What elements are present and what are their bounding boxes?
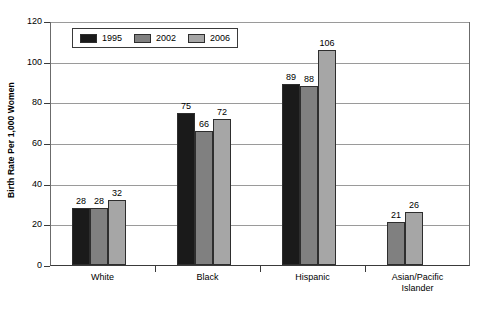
legend-swatch [188, 34, 205, 43]
y-axis-tick-label: 60 [14, 139, 42, 148]
gridline [51, 22, 469, 23]
gridline [51, 103, 469, 104]
y-axis-tick-mark [44, 266, 50, 267]
y-axis-tick-label: 80 [14, 98, 42, 107]
legend-entry: 2006 [188, 34, 230, 43]
x-axis-group-label: White [50, 272, 155, 283]
legend: 199520022006 [72, 28, 238, 48]
x-axis-label-line: White [50, 272, 155, 283]
bar [213, 119, 231, 265]
x-axis-group-label: Black [155, 272, 260, 283]
x-axis-label-line: Black [155, 272, 260, 283]
bar-value-label: 26 [399, 201, 429, 210]
gridline [51, 63, 469, 64]
bar [90, 208, 108, 265]
gridline [51, 144, 469, 145]
x-axis-group-label: Asian/PacificIslander [365, 272, 470, 294]
bar-value-label: 32 [102, 189, 132, 198]
legend-swatch [134, 34, 151, 43]
bar-chart: Birth Rate Per 1,000 Women 0204060801001… [0, 0, 487, 309]
bar [108, 200, 126, 265]
x-axis-group-label: Hispanic [260, 272, 365, 283]
bar [195, 131, 213, 265]
plot-area: 28283275667289881062126 [50, 22, 470, 266]
legend-entry: 2002 [134, 34, 176, 43]
bar [318, 50, 336, 266]
y-axis-tick-label: 0 [14, 261, 42, 270]
bar [300, 86, 318, 265]
bar-value-label: 106 [312, 39, 342, 48]
bar [387, 222, 405, 265]
x-axis-label-line: Islander [365, 283, 470, 294]
bar-value-label: 72 [207, 108, 237, 117]
bar [177, 113, 195, 266]
y-axis-tick-label: 20 [14, 220, 42, 229]
x-axis-label-line: Hispanic [260, 272, 365, 283]
legend-entry: 1995 [80, 34, 122, 43]
bar [72, 208, 90, 265]
bar [282, 84, 300, 265]
legend-swatch [80, 34, 97, 43]
bar-value-label: 75 [171, 102, 201, 111]
bar [405, 212, 423, 265]
legend-label: 1995 [102, 34, 122, 43]
legend-label: 2006 [210, 34, 230, 43]
x-axis-label-line: Asian/Pacific [365, 272, 470, 283]
y-axis-tick-label: 120 [14, 17, 42, 26]
legend-label: 2002 [156, 34, 176, 43]
gridline [51, 185, 469, 186]
y-axis-tick-label: 100 [14, 58, 42, 67]
y-axis-tick-label: 40 [14, 180, 42, 189]
